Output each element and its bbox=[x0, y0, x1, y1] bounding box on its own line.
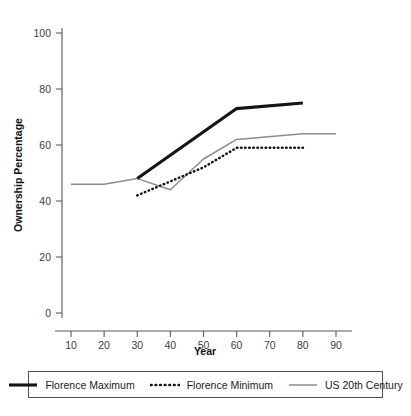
x-axis-title: Year bbox=[194, 345, 216, 357]
x-tick-label: 80 bbox=[297, 339, 309, 351]
x-tick-label: 40 bbox=[165, 339, 177, 351]
legend-label-florence-maximum: Florence Maximum bbox=[45, 379, 134, 391]
y-tick-label: 20 bbox=[39, 251, 51, 263]
legend-item-us-20th-century: US 20th Century bbox=[288, 379, 403, 391]
x-tick-label: 30 bbox=[131, 339, 143, 351]
x-tick-label: 20 bbox=[98, 339, 110, 351]
y-tick-label: 80 bbox=[39, 83, 51, 95]
series-line-florence-maximum bbox=[137, 103, 303, 179]
legend-item-florence-maximum: Florence Maximum bbox=[8, 379, 134, 391]
legend-swatch-thick-solid-line-icon bbox=[8, 379, 38, 391]
x-tick-label: 10 bbox=[65, 339, 77, 351]
legend-item-florence-minimum: Florence Minimum bbox=[150, 379, 273, 391]
y-tick-label: 100 bbox=[33, 27, 51, 39]
chart-legend: Florence Maximum Florence Minimum US 20t… bbox=[28, 371, 383, 398]
legend-swatch-dotted-line-icon bbox=[150, 379, 180, 391]
x-tick-label: 70 bbox=[264, 339, 276, 351]
y-axis-title: Ownership Percentage bbox=[12, 118, 24, 232]
y-tick-label: 40 bbox=[39, 195, 51, 207]
series-line-us-20th-century bbox=[71, 134, 336, 190]
y-tick-label: 0 bbox=[45, 307, 51, 319]
x-tick-label: 60 bbox=[231, 339, 243, 351]
y-axis: 020406080100 bbox=[33, 27, 62, 319]
legend-label-us-20th-century: US 20th Century bbox=[325, 379, 403, 391]
y-ticks: 020406080100 bbox=[33, 27, 62, 319]
chart-figure: 020406080100 102030405060708090 Year Own… bbox=[0, 0, 411, 416]
legend-swatch-thin-gray-line-icon bbox=[288, 379, 318, 391]
plot-area: 020406080100 102030405060708090 Year Own… bbox=[0, 0, 411, 360]
legend-label-florence-minimum: Florence Minimum bbox=[187, 379, 273, 391]
x-tick-label: 90 bbox=[330, 339, 342, 351]
series-layer bbox=[71, 103, 336, 195]
line-chart-svg: 020406080100 102030405060708090 Year Own… bbox=[0, 0, 411, 360]
series-line-florence-minimum bbox=[137, 148, 303, 196]
y-tick-label: 60 bbox=[39, 139, 51, 151]
